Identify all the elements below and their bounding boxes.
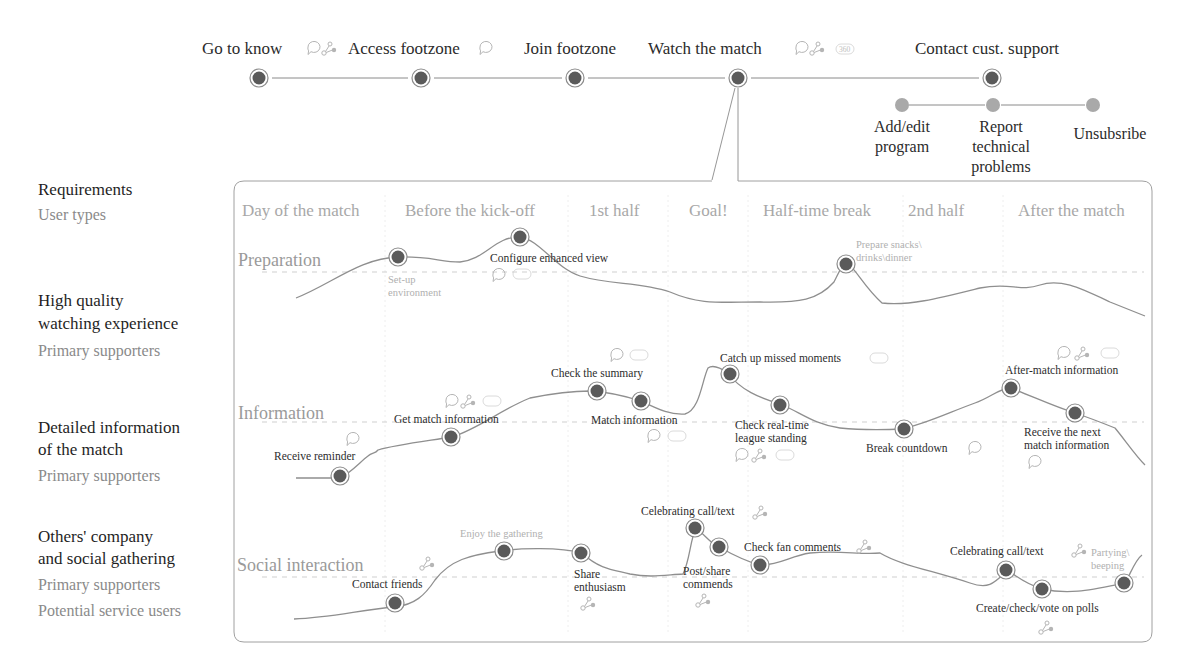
svg-text:Join footzone: Join footzone	[524, 39, 616, 58]
touchpoint-get-match-info[interactable]: Get match information	[394, 394, 501, 446]
substage-report-problems[interactable]: Report technical problems	[971, 98, 1031, 176]
svg-text:Add/edit: Add/edit	[874, 118, 931, 135]
360-badge-icon	[630, 350, 648, 360]
substage-add-edit-program[interactable]: Add/edit program	[874, 98, 931, 156]
chat-icon	[1058, 346, 1070, 359]
stage-go-to-know[interactable]: Go to know	[202, 39, 336, 87]
svg-text:Celebrating call/text: Celebrating call/text	[950, 545, 1044, 558]
svg-text:Check fan comments: Check fan comments	[744, 541, 842, 553]
touchpoint-match-information[interactable]: Match information	[591, 392, 686, 443]
svg-text:Detailed information: Detailed information	[38, 418, 181, 437]
user-types-header: User types	[38, 206, 106, 224]
share-icon	[1072, 544, 1086, 557]
touchpoint-receive-reminder[interactable]: Receive reminder	[274, 432, 359, 485]
svg-text:league standing: league standing	[735, 432, 807, 445]
chat-icon	[446, 394, 458, 407]
svg-text:Post/share: Post/share	[683, 565, 730, 577]
touchpoint-share-enthusiasm[interactable]: Share enthusiasm	[572, 544, 626, 610]
svg-text:Primary supporters: Primary supporters	[38, 342, 160, 360]
share-icon	[752, 449, 766, 462]
svg-text:watching experience: watching experience	[38, 314, 178, 333]
svg-text:beeping: beeping	[1091, 560, 1125, 571]
share-icon	[1039, 621, 1053, 634]
touchpoint-next-match-info[interactable]: Receive the next match information	[1024, 404, 1110, 469]
svg-text:commends: commends	[683, 578, 733, 590]
svg-text:Set-up: Set-up	[388, 274, 415, 285]
stage-node[interactable]	[250, 69, 268, 87]
touchpoint-prepare-snacks[interactable]: Prepare snacks\ drinks\dinner	[837, 239, 922, 273]
svg-text:Check the summary: Check the summary	[551, 367, 643, 380]
touchpoint-break-countdown[interactable]: Break countdown	[866, 420, 981, 455]
chat-icon	[347, 432, 359, 445]
chat-icon	[796, 41, 808, 54]
stage-node[interactable]	[983, 69, 1001, 87]
svg-text:problems: problems	[971, 158, 1031, 176]
svg-text:Get match information: Get match information	[394, 413, 499, 425]
svg-text:Check real-time: Check real-time	[735, 419, 809, 431]
svg-text:Contact friends: Contact friends	[352, 578, 423, 590]
360-badge-icon	[776, 450, 794, 460]
chat-icon	[969, 441, 981, 454]
touchpoint-league-standing[interactable]: Check real-time league standing	[735, 396, 809, 462]
svg-text:Contact cust. support: Contact cust. support	[915, 39, 1059, 58]
touchpoint-configure-view[interactable]: Configure enhanced view	[490, 228, 609, 282]
journey-stages: Go to know Access footzone Join footzone…	[202, 39, 1146, 176]
svg-text:Catch up missed moments: Catch up missed moments	[720, 352, 842, 365]
callout-lines	[712, 88, 738, 181]
chat-icon	[736, 448, 748, 461]
touchpoint-celebrating-call-2[interactable]: Celebrating call/text	[950, 544, 1086, 579]
share-icon	[1075, 347, 1089, 360]
touchpoint-polls[interactable]: Create/check/vote on polls	[976, 580, 1099, 634]
touchpoint-catch-up[interactable]: Catch up missed moments	[720, 352, 888, 383]
lane-preparation: Preparation Set-up environment Configure…	[238, 228, 1145, 316]
chat-icon	[493, 268, 505, 281]
chat-icon	[611, 348, 623, 361]
stage-node[interactable]	[412, 69, 430, 87]
share-icon	[322, 42, 336, 55]
svg-text:Half-time break: Half-time break	[763, 201, 872, 220]
share-icon	[581, 597, 595, 610]
svg-text:Receive the next: Receive the next	[1024, 426, 1101, 438]
stage-node[interactable]	[729, 69, 747, 87]
share-icon	[753, 506, 767, 519]
lane-social-interaction: Social interaction Contact friends Enjoy…	[237, 505, 1144, 634]
lane-label: Preparation	[238, 250, 321, 270]
svg-text:Partying\: Partying\	[1091, 547, 1130, 558]
touchpoint-setup-environment[interactable]: Set-up environment	[388, 248, 441, 298]
svg-text:Primary supporters: Primary supporters	[38, 576, 160, 594]
touchpoint-enjoy-gathering[interactable]: Enjoy the gathering	[460, 528, 544, 560]
lane-label: Social interaction	[237, 555, 363, 575]
touchpoint-contact-friends[interactable]: Contact friends	[352, 557, 434, 612]
stage-node[interactable]	[566, 69, 584, 87]
touchpoint-check-fan-comments[interactable]: Check fan comments	[744, 540, 871, 574]
share-icon	[810, 42, 824, 55]
svg-text:technical: technical	[972, 138, 1030, 155]
svg-text:Report: Report	[979, 118, 1023, 136]
svg-text:enthusiasm: enthusiasm	[574, 581, 626, 593]
lane-information: Information Receive reminder Get match i…	[238, 346, 1145, 485]
svg-text:and social gathering: and social gathering	[38, 549, 175, 568]
svg-text:2nd half: 2nd half	[908, 201, 965, 220]
svg-text:Potential service users: Potential service users	[38, 602, 181, 619]
360-badge-icon	[483, 396, 501, 406]
stage-join-footzone[interactable]: Join footzone	[524, 39, 616, 87]
svg-text:Goal!: Goal!	[689, 201, 728, 220]
stage-watch-the-match[interactable]: Watch the match 360	[648, 39, 854, 87]
share-icon	[696, 594, 710, 607]
360-badge-icon	[1101, 348, 1119, 358]
svg-text:drinks\dinner: drinks\dinner	[856, 252, 912, 263]
svg-text:Share: Share	[574, 568, 600, 580]
requirements-column: Requirements User types High quality wat…	[38, 180, 181, 619]
stage-access-footzone[interactable]: Access footzone	[348, 39, 492, 87]
share-icon	[857, 540, 871, 553]
chat-icon	[480, 41, 492, 54]
svg-text:Match information: Match information	[591, 414, 678, 426]
journey-diagram: Go to know Access footzone Join footzone…	[0, 0, 1182, 665]
chat-icon	[308, 41, 320, 54]
svg-text:Break countdown: Break countdown	[866, 442, 948, 454]
svg-text:of the match: of the match	[38, 440, 123, 459]
touchpoint-after-match-info[interactable]: After-match information	[1002, 346, 1119, 397]
stage-contact-support[interactable]: Contact cust. support	[915, 39, 1059, 87]
svg-text:1st half: 1st half	[589, 201, 640, 220]
svg-text:High quality: High quality	[38, 291, 124, 310]
